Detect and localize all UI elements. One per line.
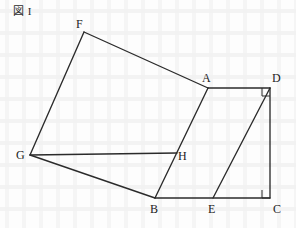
vertex-label-f: F xyxy=(76,18,83,30)
geometry-diagram xyxy=(0,0,296,228)
vertex-label-b: B xyxy=(150,203,158,215)
edge-gh xyxy=(30,153,177,155)
vertex-label-g: G xyxy=(16,149,25,161)
edge-layer xyxy=(30,32,270,198)
edge-fa xyxy=(84,32,208,88)
vertex-label-d: D xyxy=(272,72,281,84)
vertex-label-c: C xyxy=(273,203,281,215)
edge-ab xyxy=(155,88,208,198)
vertex-label-h: H xyxy=(178,150,187,162)
angle-at-C-icon xyxy=(262,190,270,198)
figure-container: 図 I FADGHBEC xyxy=(0,0,296,228)
edge-de xyxy=(213,88,270,198)
right-angle-marker-layer xyxy=(262,88,270,198)
edge-gf xyxy=(30,32,84,155)
edge-gb xyxy=(30,155,155,198)
vertex-label-e: E xyxy=(208,203,215,215)
vertex-label-a: A xyxy=(202,72,211,84)
